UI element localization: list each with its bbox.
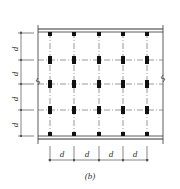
horizontal-dim-label-3: d bbox=[109, 149, 114, 159]
vertical-dim-label-4: d bbox=[10, 122, 20, 127]
reinforcement-grid-diagram: d d d d d d d d (b) bbox=[0, 0, 180, 189]
horizontal-dim-label-4: d bbox=[133, 149, 138, 159]
bottom-wall bbox=[38, 136, 163, 139]
vertical-dim-label-2: d bbox=[10, 71, 20, 76]
top-wall bbox=[38, 29, 163, 32]
horizontal-dim-label-1: d bbox=[60, 149, 65, 159]
vertical-dim-label-1: d bbox=[10, 46, 20, 51]
figure-caption: (b) bbox=[85, 171, 96, 181]
horizontal-dim-label-2: d bbox=[85, 149, 90, 159]
vertical-dim-label-3: d bbox=[10, 96, 20, 101]
